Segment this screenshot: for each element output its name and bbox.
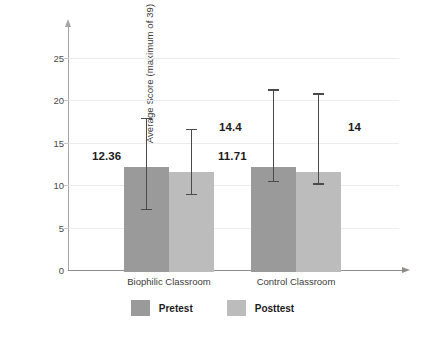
y-tick-label-20: 20 <box>38 95 64 106</box>
error-bar-line-control-posttest <box>318 93 319 183</box>
plot-area: Average Score (maximum of 39) 25 20 15 1… <box>68 22 408 272</box>
gridline-5 <box>69 228 399 229</box>
x-axis-arrow-icon <box>402 267 410 273</box>
y-tick-mark-25 <box>64 58 69 59</box>
x-axis-label-biophilic: Biophilic Classroom <box>109 276 229 287</box>
gridline-10 <box>69 185 399 186</box>
bar-chart: Average Score (maximum of 39) 25 20 15 1… <box>0 0 425 347</box>
value-label-biophilic-posttest: 11.71 <box>218 150 247 162</box>
chart-legend: Pretest Posttest <box>0 300 425 316</box>
error-bar-line-biophilic-pretest <box>146 118 147 209</box>
x-axis-line <box>68 270 406 271</box>
error-bar-cap-bottom-control-posttest <box>313 183 324 185</box>
y-tick-mark-20 <box>64 100 69 101</box>
gridline-25 <box>69 58 399 59</box>
legend-item-pretest[interactable]: Pretest <box>131 300 193 316</box>
value-label-biophilic-pretest: 12.36 <box>92 150 121 162</box>
gridline-15 <box>69 143 399 144</box>
legend-label-posttest: Posttest <box>255 303 294 314</box>
y-tick-label-0: 0 <box>38 265 64 276</box>
error-bar-cap-top-control-posttest <box>313 93 324 95</box>
error-bar-cap-bottom-control-pretest <box>268 181 279 183</box>
error-bar-cap-top-biophilic-pretest <box>141 118 152 120</box>
value-label-control-pretest: 14.4 <box>219 121 242 133</box>
legend-label-pretest: Pretest <box>159 303 193 314</box>
error-bar-cap-bottom-biophilic-posttest <box>186 194 197 196</box>
legend-swatch-posttest <box>227 300 246 316</box>
gridline-20 <box>69 100 399 101</box>
error-bar-cap-bottom-biophilic-pretest <box>141 209 152 211</box>
x-axis-label-control: Control Classroom <box>240 276 352 287</box>
bar-control-pretest[interactable] <box>251 167 296 272</box>
value-label-control-posttest: 14 <box>348 121 361 133</box>
y-tick-mark-15 <box>64 143 69 144</box>
y-tick-label-15: 15 <box>38 137 64 148</box>
legend-swatch-pretest <box>131 300 150 316</box>
y-tick-label-5: 5 <box>38 222 64 233</box>
y-tick-mark-10 <box>64 185 69 186</box>
y-tick-label-10: 10 <box>38 180 64 191</box>
legend-item-posttest[interactable]: Posttest <box>227 300 294 316</box>
error-bar-line-control-pretest <box>273 89 274 181</box>
y-tick-label-25: 25 <box>38 52 64 63</box>
error-bar-line-biophilic-posttest <box>191 129 192 194</box>
y-tick-mark-5 <box>64 228 69 229</box>
error-bar-cap-top-control-pretest <box>268 89 279 91</box>
bar-control-posttest[interactable] <box>296 172 341 272</box>
error-bar-cap-top-biophilic-posttest <box>186 129 197 131</box>
y-axis-arrow-icon <box>65 19 71 27</box>
y-axis-line <box>68 26 69 271</box>
